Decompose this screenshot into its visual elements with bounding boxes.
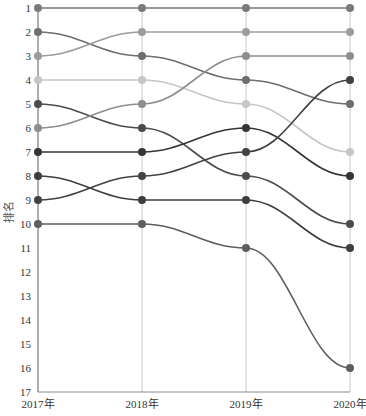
data-point-D [346, 148, 354, 156]
y-axis-title: 排名 [2, 201, 16, 223]
data-point-I [346, 76, 354, 84]
data-point-E [138, 124, 146, 132]
series-line-C [38, 32, 350, 56]
data-point-A [138, 4, 146, 12]
series-markers [34, 4, 354, 372]
y-tick-label: 1 [26, 2, 32, 14]
x-tick-label: 2020年 [334, 397, 366, 410]
series-line-J [38, 224, 350, 368]
y-tick-label: 4 [26, 74, 32, 86]
data-point-C [34, 52, 42, 60]
data-point-F [346, 52, 354, 60]
data-point-E [242, 172, 250, 180]
data-point-H [346, 244, 354, 252]
data-point-H [242, 196, 250, 204]
series-line-B [38, 32, 350, 104]
y-tick-label: 3 [26, 50, 32, 62]
data-point-E [346, 220, 354, 228]
data-point-B [346, 100, 354, 108]
data-point-G [34, 148, 42, 156]
data-point-H [138, 196, 146, 204]
y-tick-label: 16 [20, 362, 32, 374]
x-tick-label: 2018年 [126, 397, 159, 410]
y-tick-label: 8 [26, 170, 32, 182]
data-point-E [34, 100, 42, 108]
data-point-F [34, 124, 42, 132]
y-axis-ticks: 1234567891011121314151617 [20, 2, 32, 398]
series-line-D [38, 80, 350, 152]
data-point-B [242, 76, 250, 84]
data-point-F [138, 100, 146, 108]
y-tick-label: 12 [20, 266, 31, 278]
y-tick-label: 13 [20, 290, 32, 302]
data-point-D [242, 100, 250, 108]
data-point-B [34, 28, 42, 36]
data-point-C [138, 28, 146, 36]
data-point-C [242, 28, 250, 36]
series-line-H [38, 176, 350, 248]
data-point-J [242, 244, 250, 252]
data-point-B [138, 52, 146, 60]
y-tick-label: 7 [26, 146, 32, 158]
y-tick-label: 5 [26, 98, 32, 110]
series-lines [38, 8, 350, 368]
y-tick-label: 2 [26, 26, 32, 38]
data-point-F [242, 52, 250, 60]
chart-canvas: 1234567891011121314151617 2017年2018年2019… [0, 0, 366, 416]
y-tick-label: 11 [20, 242, 31, 254]
data-point-I [242, 148, 250, 156]
data-point-A [242, 4, 250, 12]
data-point-G [346, 172, 354, 180]
data-point-J [346, 364, 354, 372]
x-axis-ticks: 2017年2018年2019年2020年 [22, 397, 366, 410]
bump-chart: 1234567891011121314151617 2017年2018年2019… [0, 0, 366, 416]
data-point-D [138, 76, 146, 84]
x-tick-label: 2017年 [22, 397, 55, 410]
y-tick-label: 9 [26, 194, 32, 206]
data-point-H [34, 172, 42, 180]
y-tick-label: 6 [26, 122, 32, 134]
data-point-G [242, 124, 250, 132]
data-point-J [138, 220, 146, 228]
y-tick-label: 14 [20, 314, 32, 326]
y-tick-label: 17 [20, 386, 32, 398]
x-tick-label: 2019年 [230, 397, 263, 410]
data-point-A [34, 4, 42, 12]
data-point-C [346, 28, 354, 36]
data-point-J [34, 220, 42, 228]
y-tick-label: 10 [20, 218, 32, 230]
data-point-G [138, 148, 146, 156]
data-point-D [34, 76, 42, 84]
y-tick-label: 15 [20, 338, 32, 350]
data-point-I [34, 196, 42, 204]
data-point-I [138, 172, 146, 180]
data-point-A [346, 4, 354, 12]
